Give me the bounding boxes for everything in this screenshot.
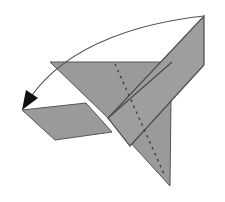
origami-diagram bbox=[0, 0, 225, 202]
arrowhead-icon bbox=[22, 90, 38, 110]
